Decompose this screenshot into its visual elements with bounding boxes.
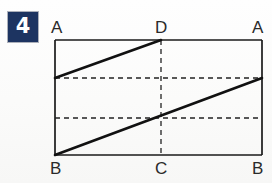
- geometry-diagram: [0, 0, 272, 183]
- vertex-label-a-top-right: A: [252, 19, 263, 36]
- vertex-label-b-bottom-right: B: [252, 160, 263, 177]
- vertex-label-d-top-middle: D: [155, 19, 167, 36]
- diagonal-lower-segment: [55, 78, 262, 155]
- vertex-label-a-top-left: A: [51, 19, 62, 36]
- figure-container: 4 A D A B C B: [0, 0, 272, 183]
- diagonal-upper-segment: [55, 40, 161, 78]
- vertex-label-b-bottom-left: B: [50, 160, 61, 177]
- vertex-label-c-bottom-middle: C: [155, 160, 167, 177]
